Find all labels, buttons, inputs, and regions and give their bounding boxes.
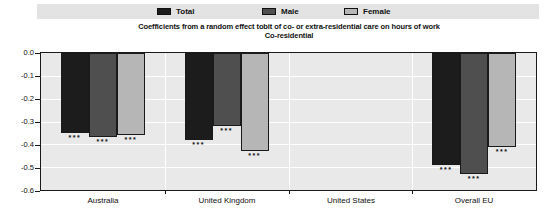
x-axis-category-label: United Kingdom (165, 196, 289, 206)
y-axis-tick (35, 76, 40, 77)
legend-item-male: Male (262, 4, 299, 19)
x-axis-tick (412, 191, 413, 194)
significance-stars: *** (460, 175, 488, 183)
legend-swatch-total-icon (157, 8, 171, 15)
significance-stars: *** (61, 134, 89, 142)
y-axis-tick (35, 145, 40, 146)
significance-stars: *** (241, 152, 269, 160)
x-axis-category-label: United States (289, 196, 413, 206)
significance-stars: *** (432, 166, 460, 174)
gridline-vertical (289, 53, 290, 190)
significance-stars: *** (213, 127, 241, 135)
chart-title: Coefficients from a random effect tobit … (40, 22, 538, 31)
bar-female-australia (117, 53, 145, 135)
bar-total-australia (61, 53, 89, 133)
y-axis-tick (35, 168, 40, 169)
legend-label-male: Male (281, 4, 299, 19)
bar-male-australia (89, 53, 117, 137)
y-axis-tick (35, 53, 40, 54)
y-axis-label: 0.0 (10, 49, 34, 57)
legend-label-total: Total (176, 4, 195, 19)
y-axis-label: -0.2 (10, 95, 34, 103)
y-axis-label: -0.3 (10, 118, 34, 126)
legend-label-female: Female (363, 4, 391, 19)
legend-item-total: Total (157, 4, 195, 19)
chart-subtitle: Co-residential (40, 31, 538, 40)
bar-total-overall-eu (432, 53, 460, 165)
bar-female-united-kingdom (241, 53, 269, 151)
x-axis-tick (289, 191, 290, 194)
significance-stars: *** (117, 136, 145, 144)
y-axis-label: -0.6 (10, 187, 34, 195)
y-axis-tick (35, 191, 40, 192)
x-axis-tick (165, 191, 166, 194)
plot-area: *************************** (40, 52, 537, 191)
bar-total-united-kingdom (185, 53, 213, 140)
y-axis-label: -0.1 (10, 72, 34, 80)
legend-item-female: Female (344, 4, 391, 19)
legend-swatch-female-icon (344, 8, 358, 15)
legend: Total Male Female (37, 4, 539, 19)
x-axis-category-label: Australia (41, 196, 165, 206)
y-axis-label: -0.5 (10, 164, 34, 172)
y-axis-tick (35, 122, 40, 123)
bar-male-united-kingdom (213, 53, 241, 126)
bar-female-overall-eu (488, 53, 516, 147)
chart: Total Male Female Coefficients from a ra… (0, 0, 546, 223)
legend-swatch-male-icon (262, 8, 276, 15)
y-axis-tick (35, 99, 40, 100)
y-axis-label: -0.4 (10, 141, 34, 149)
gridline-vertical (165, 53, 166, 190)
gridline-vertical (412, 53, 413, 190)
significance-stars: *** (89, 138, 117, 146)
bar-male-overall-eu (460, 53, 488, 174)
significance-stars: *** (488, 148, 516, 156)
significance-stars: *** (185, 141, 213, 149)
x-axis-category-label: Overall EU (412, 196, 536, 206)
